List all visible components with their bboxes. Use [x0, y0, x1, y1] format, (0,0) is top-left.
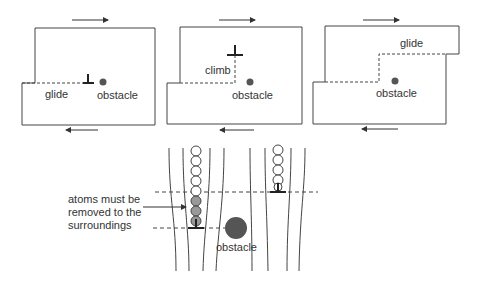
glide-label: glide [400, 37, 423, 49]
obstacle-dot [100, 79, 107, 86]
obstacle-large [225, 217, 247, 239]
panel-glide-after [313, 20, 459, 129]
obstacle-label: obstacle [216, 241, 257, 253]
annotation-line-2: removed to the [68, 206, 141, 218]
annotation-line-1: atoms must be [68, 193, 140, 205]
obstacle-dot [392, 78, 399, 85]
obstacle-label: obstacle [97, 89, 138, 101]
atom-column-left [191, 146, 201, 196]
panel-glide [22, 20, 155, 130]
obstacle-label: obstacle [376, 87, 417, 99]
annotation-line-3: surroundings [68, 219, 132, 231]
obstacle-label: obstacle [232, 89, 273, 101]
obstacle-dot [247, 79, 254, 86]
glide-label: glide [45, 88, 68, 100]
climb-label: climb [205, 64, 231, 76]
panel-climb [167, 20, 302, 130]
dislocation-climb-diagram: glide obstacle climb obstacle glide obst… [0, 0, 479, 281]
